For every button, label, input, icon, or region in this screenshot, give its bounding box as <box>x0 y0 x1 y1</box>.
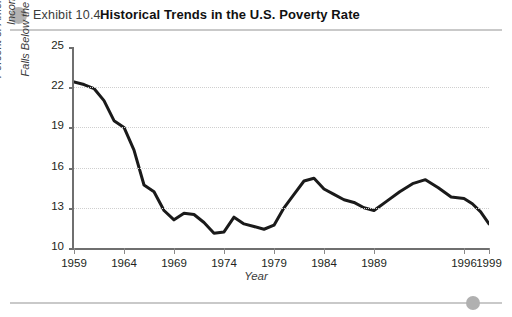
footer-dot-icon <box>466 296 480 310</box>
x-axis-tick-label: 1989 <box>354 257 394 269</box>
x-axis-tick-mark <box>224 248 225 254</box>
x-axis-tick-mark <box>489 248 490 254</box>
gridline <box>74 87 489 88</box>
y-axis-tick-label: 25 <box>38 39 64 51</box>
gridline <box>74 168 489 169</box>
gridline <box>74 208 489 209</box>
x-axis-tick-mark <box>124 248 125 254</box>
x-axis-tick-mark <box>174 248 175 254</box>
page-title: Historical Trends in the U.S. Poverty Ra… <box>100 7 360 22</box>
y-axis-title-line1: Percent of Americans Whose Income <box>0 0 17 78</box>
y-axis-tick-mark <box>69 127 74 129</box>
plot-area: 1013161922251959196419691974197919841989… <box>72 47 489 250</box>
y-axis-title-line2: Falls Below the Poverty Line <box>19 0 31 76</box>
y-axis-title: Percent of Americans Whose Income Falls … <box>0 0 32 82</box>
x-axis-tick-label: 1979 <box>254 257 294 269</box>
x-axis-tick-label: 1984 <box>304 257 344 269</box>
exhibit-number-label: Exhibit 10.4 <box>33 8 101 22</box>
y-axis-tick-label: 13 <box>38 200 64 212</box>
x-axis-tick-mark <box>324 248 325 254</box>
footer-divider <box>10 302 502 304</box>
y-axis-tick-mark <box>69 87 74 89</box>
x-axis-tick-label: 1999 <box>469 257 509 269</box>
x-axis-tick-mark <box>74 248 75 254</box>
y-axis-tick-label: 22 <box>38 79 64 91</box>
series-polyline <box>74 82 489 233</box>
x-axis-tick-label: 1959 <box>54 257 94 269</box>
y-axis-tick-label: 19 <box>38 119 64 131</box>
x-axis-tick-label: 1969 <box>154 257 194 269</box>
x-axis-tick-mark <box>274 248 275 254</box>
x-axis-tick-mark <box>374 248 375 254</box>
x-axis-title: Year <box>0 270 512 282</box>
chart-container: Percent of Americans Whose Income Falls … <box>0 30 512 295</box>
gridline <box>74 127 489 128</box>
x-axis-tick-label: 1964 <box>104 257 144 269</box>
exhibit-header: Exhibit 10.4 Historical Trends in the U.… <box>0 0 512 30</box>
y-axis-tick-mark <box>69 168 74 170</box>
y-axis-tick-label: 16 <box>38 160 64 172</box>
x-axis-tick-mark <box>464 248 465 254</box>
poverty-rate-line-series <box>74 47 489 248</box>
y-axis-tick-mark <box>69 47 74 49</box>
y-axis-tick-mark <box>69 208 74 210</box>
x-axis-tick-label: 1974 <box>204 257 244 269</box>
y-axis-tick-label: 10 <box>38 240 64 252</box>
